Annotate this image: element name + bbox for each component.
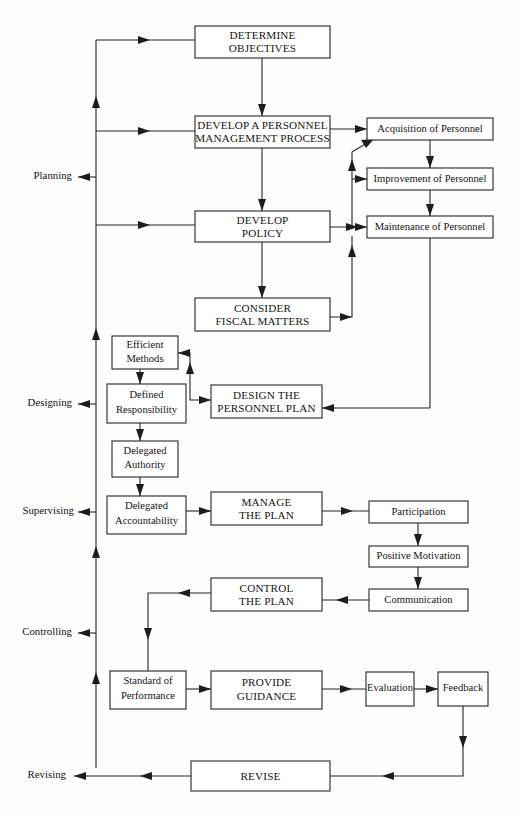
node-participation[interactable]: Participation <box>369 501 468 523</box>
edge-control-to-standard <box>148 593 211 671</box>
arrowhead-evaluation-to-feedback <box>426 685 438 693</box>
arrowhead-communication-to-control <box>336 596 348 604</box>
phase-label-planning: Planning <box>34 169 73 181</box>
arrowhead-policy-to-fiscal <box>258 286 266 298</box>
node-standard-of-performance-line1: Standard of <box>123 675 173 686</box>
node-determine-objectives-line2: OBJECTIVES <box>229 42 296 54</box>
node-develop-personnel-management-process[interactable]: DEVELOP A PERSONNEL MANAGEMENT PROCESS <box>195 116 330 148</box>
arrowhead-guidance-to-evaluation <box>340 685 352 693</box>
phase-label-layer: Planning Designing Supervising Controlli… <box>22 169 74 780</box>
phase-label-controlling: Controlling <box>22 625 72 637</box>
node-defined-responsibility[interactable]: Defined Responsibility <box>107 384 186 423</box>
arrowhead-to-determine <box>138 36 150 44</box>
node-standard-of-performance-line2: Performance <box>121 690 175 701</box>
node-efficient-methods-line2: Methods <box>126 353 163 364</box>
arrowhead-to-acquisition <box>355 125 367 133</box>
node-develop-policy-line1: DEVELOP <box>236 214 288 226</box>
node-standard-of-performance[interactable]: Standard of Performance <box>110 671 186 709</box>
node-revise[interactable]: REVISE <box>191 761 330 791</box>
arrowhead-defined-to-authority <box>136 429 144 441</box>
node-determine-objectives[interactable]: DETERMINE OBJECTIVES <box>195 26 330 58</box>
node-maintenance-of-personnel-label: Maintenance of Personnel <box>375 221 486 232</box>
arrowhead-tick-designing <box>78 400 90 408</box>
node-defined-responsibility-line2: Responsibility <box>116 404 178 415</box>
node-communication[interactable]: Communication <box>369 589 468 611</box>
edge-fiscal-to-riser <box>330 236 352 317</box>
arrowhead-spine-up-bottom <box>92 672 100 684</box>
node-delegated-authority-line2: Authority <box>124 459 166 470</box>
node-consider-fiscal-matters[interactable]: CONSIDER FISCAL MATTERS <box>195 298 330 331</box>
node-develop-policy-line2: POLICY <box>242 227 283 239</box>
node-positive-motivation[interactable]: Positive Motivation <box>369 546 468 567</box>
node-design-the-personnel-plan-line1: DESIGN THE <box>233 389 300 401</box>
arrowhead-policy-to-maintenance-b <box>355 223 367 231</box>
node-design-the-personnel-plan[interactable]: DESIGN THE PERSONNEL PLAN <box>211 385 322 418</box>
node-delegated-accountability[interactable]: Delegated Accountability <box>107 496 186 534</box>
node-efficient-methods-line1: Efficient <box>127 339 164 350</box>
arrowhead-riser-to-improvement <box>355 175 367 183</box>
arrowhead-control-to-standard-left <box>178 589 190 597</box>
node-revise-label: REVISE <box>240 770 280 782</box>
flowchart-canvas: DETERMINE OBJECTIVES DEVELOP A PERSONNEL… <box>0 0 522 816</box>
arrowhead-design-riser-up <box>186 362 194 374</box>
arrowhead-authority-to-accountability <box>136 484 144 496</box>
node-develop-personnel-management-process-line1: DEVELOP A PERSONNEL <box>197 119 327 131</box>
node-provide-guidance-line1: PROVIDE <box>242 676 292 688</box>
node-positive-motivation-label: Positive Motivation <box>377 550 462 561</box>
node-manage-the-plan[interactable]: MANAGE THE PLAN <box>211 492 322 525</box>
node-determine-objectives-line1: DETERMINE <box>230 29 296 41</box>
node-control-the-plan-line2: THE PLAN <box>239 595 294 607</box>
arrowhead-efficient-to-defined <box>136 372 144 384</box>
node-control-the-plan-line1: CONTROL <box>240 582 294 594</box>
arrowhead-revise-left <box>140 772 152 780</box>
arrowhead-spine-up-top <box>92 96 100 108</box>
node-evaluation-label: Evaluation <box>367 682 414 693</box>
node-provide-guidance[interactable]: PROVIDE GUIDANCE <box>211 671 322 709</box>
node-develop-personnel-management-process-line2: MANAGEMENT PROCESS <box>195 132 330 144</box>
arrowhead-feedback-down <box>459 736 467 748</box>
edge-feedback-to-revise <box>330 704 463 776</box>
node-acquisition-of-personnel[interactable]: Acquisition of Personnel <box>367 118 493 140</box>
arrowhead-revise-to-revising-label <box>74 772 86 780</box>
node-design-the-personnel-plan-line2: PERSONNEL PLAN <box>217 402 315 414</box>
node-feedback[interactable]: Feedback <box>438 672 488 706</box>
arrowhead-acquisition-to-improvement <box>426 156 434 168</box>
node-manage-the-plan-line1: MANAGE <box>242 496 292 508</box>
node-delegated-accountability-line2: Accountability <box>115 515 179 526</box>
arrowhead-manage-to-participation <box>341 507 353 515</box>
arrowhead-fiscal-to-riser <box>340 313 352 321</box>
phase-label-designing: Designing <box>28 396 73 408</box>
arrowhead-spine-up-low <box>92 546 100 558</box>
arrowhead-into-defined-resp <box>199 396 211 404</box>
node-consider-fiscal-matters-line1: CONSIDER <box>234 302 292 314</box>
arrowhead-develop-process-to-policy <box>258 199 266 211</box>
arrowhead-into-design-plan <box>322 404 334 412</box>
phase-label-supervising: Supervising <box>22 504 74 516</box>
phase-label-revising: Revising <box>28 768 67 780</box>
arrowhead-feedback-to-revise <box>382 772 394 780</box>
arrowhead-tick-controlling <box>78 629 90 637</box>
box-layer: DETERMINE OBJECTIVES DEVELOP A PERSONNEL… <box>107 26 493 791</box>
node-control-the-plan[interactable]: CONTROL THE PLAN <box>211 578 322 611</box>
node-maintenance-of-personnel[interactable]: Maintenance of Personnel <box>367 216 493 238</box>
arrowhead-to-develop-policy <box>138 221 150 229</box>
node-delegated-authority[interactable]: Delegated Authority <box>112 441 178 477</box>
node-acquisition-of-personnel-label: Acquisition of Personnel <box>377 123 482 134</box>
arrowhead-riser-up-low <box>348 245 356 257</box>
arrowhead-accountability-to-manage <box>199 507 211 515</box>
arrowhead-riser-up <box>348 159 356 171</box>
arrowhead-standard-to-guidance <box>199 685 211 693</box>
node-feedback-label: Feedback <box>443 682 484 693</box>
arrowhead-motivation-to-communication <box>414 577 422 589</box>
arrowhead-participation-to-motivation <box>414 534 422 546</box>
node-develop-policy[interactable]: DEVELOP POLICY <box>195 211 330 242</box>
node-defined-responsibility-line1: Defined <box>129 389 164 400</box>
node-communication-label: Communication <box>384 594 453 605</box>
node-evaluation[interactable]: Evaluation <box>366 672 414 706</box>
arrowhead-improvement-to-maintenance <box>426 204 434 216</box>
node-manage-the-plan-line2: THE PLAN <box>239 509 294 521</box>
node-improvement-of-personnel-label: Improvement of Personnel <box>374 173 487 184</box>
node-efficient-methods[interactable]: Efficient Methods <box>112 336 178 369</box>
node-delegated-authority-line1: Delegated <box>124 445 168 456</box>
node-improvement-of-personnel[interactable]: Improvement of Personnel <box>367 168 493 190</box>
